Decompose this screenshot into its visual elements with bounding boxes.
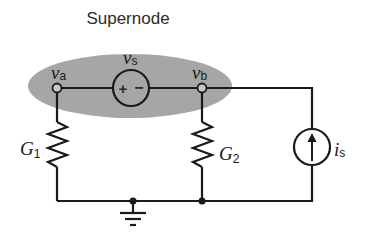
resistor-g1: [48, 122, 67, 167]
junction-g2-bottom: [199, 198, 206, 205]
ground-icon: [120, 201, 146, 225]
vs-minus: −: [134, 79, 143, 96]
vs-plus: +: [119, 80, 128, 97]
wire-bottom: [57, 165, 312, 201]
label-g2: G2: [219, 143, 240, 166]
supernode-title: Supernode: [86, 9, 169, 28]
node-b: [198, 84, 207, 93]
resistor-g2: [193, 122, 212, 167]
label-vs: vs: [123, 47, 137, 68]
circuit-diagram: Supernode + − va vb vs: [0, 0, 365, 242]
label-g1: G1: [20, 138, 41, 161]
label-is: is: [334, 139, 345, 160]
current-source-icon: [294, 129, 330, 165]
node-a: [53, 84, 62, 93]
